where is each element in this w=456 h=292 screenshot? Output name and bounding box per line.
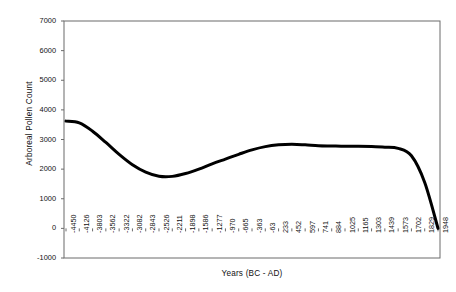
y-tick-label: -1000 [22, 253, 56, 262]
x-tick-label: 1439 [387, 217, 396, 233]
x-tick-label: -1898 [188, 215, 197, 233]
axes-frame [64, 21, 440, 258]
x-tick-label: 884 [334, 221, 343, 233]
x-tick-label: -3562 [108, 215, 117, 233]
x-tick-label: -3322 [122, 215, 131, 233]
y-tick-label: 6000 [22, 46, 56, 55]
x-tick-label: -3803 [95, 215, 104, 233]
x-tick-label: 597 [308, 221, 317, 233]
x-tick-label: -4450 [69, 215, 78, 233]
y-tick-label: 3000 [22, 135, 56, 144]
x-tick-label: -2526 [162, 215, 171, 233]
x-tick-label: -2211 [175, 216, 184, 234]
x-tick-label: -1586 [201, 215, 210, 233]
x-tick-label: 1702 [414, 217, 423, 233]
x-tick-label: 1165 [361, 218, 370, 233]
y-tick-label: 7000 [22, 16, 56, 25]
x-tick-label: 741 [321, 221, 330, 233]
x-tick-label: 1025 [348, 217, 357, 233]
x-tick-label: 1948 [441, 217, 450, 233]
x-tick-label: 1829 [427, 217, 436, 233]
x-tick-label: -63 [268, 223, 277, 233]
y-tick-label: 1000 [22, 194, 56, 203]
x-tick-label: 1303 [374, 217, 383, 233]
y-tick-label: 4000 [22, 105, 56, 114]
chart-canvas [0, 0, 456, 292]
plot-area: 70006000500040003000200010000-1000 -4450… [0, 0, 456, 292]
x-tick-label: -363 [255, 219, 264, 233]
x-tick-label: -4126 [82, 215, 91, 233]
y-tick-label: 2000 [22, 164, 56, 173]
x-tick-label: 233 [281, 221, 290, 233]
x-tick-label: -970 [228, 219, 237, 233]
plot-border [64, 21, 440, 258]
x-tick-label: -1277 [215, 215, 224, 233]
chart-figure: Arboreal Pollen Count Years (BC - AD) 70… [0, 0, 456, 292]
x-tick-label: -3082 [135, 215, 144, 233]
x-tick-label: 452 [294, 221, 303, 233]
x-tick-label: -665 [241, 219, 250, 233]
y-tick-label: 0 [22, 223, 56, 232]
y-tick-label: 5000 [22, 75, 56, 84]
x-tick-label: -2843 [148, 215, 157, 233]
x-tick-label: 1573 [401, 217, 410, 233]
